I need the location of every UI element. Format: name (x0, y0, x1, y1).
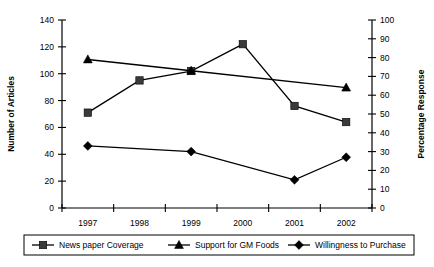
data-point-diamond (83, 142, 92, 151)
data-point-square (291, 102, 298, 109)
y-right-tick-label: 40 (380, 128, 390, 138)
y-right-tick-label: 90 (380, 34, 390, 44)
y-left-tick-label: 60 (45, 122, 55, 132)
y-axis-left-title: Number of Articles (6, 76, 16, 152)
legend-label: Willingness to Purchase (315, 240, 406, 250)
data-point-square (136, 77, 143, 84)
series-line (88, 146, 346, 180)
data-point-diamond (187, 147, 196, 156)
data-point-square (39, 241, 46, 248)
series-2 (83, 55, 350, 91)
y-right-tick-label: 20 (380, 165, 390, 175)
y-left-tick-label: 100 (40, 69, 54, 79)
series-3 (83, 142, 350, 185)
y-left-tick-label: 40 (45, 149, 55, 159)
x-tick-label: 1999 (182, 218, 201, 228)
axes-group (62, 20, 372, 208)
y-left-tick-label: 140 (40, 15, 54, 25)
data-point-square (84, 109, 91, 116)
x-tick-label: 2000 (233, 218, 252, 228)
y-right-tick-label: 80 (380, 53, 390, 63)
y-right-tick-label: 50 (380, 109, 390, 119)
data-point-triangle (83, 55, 92, 63)
x-tick-label: 2002 (337, 218, 356, 228)
chart-container: 020406080100120140 010203040506070809010… (0, 0, 434, 267)
data-point-diamond (290, 175, 299, 184)
y-right-tick-label: 60 (380, 90, 390, 100)
y-axis-right-title: Percentage Response (416, 69, 426, 158)
x-tick-label: 2001 (285, 218, 304, 228)
y-right-tick-label: 70 (380, 71, 390, 81)
series-group (83, 40, 350, 184)
data-point-square (239, 40, 246, 47)
y-left-tick-label: 80 (45, 96, 55, 106)
legend-label: News paper Coverage (59, 240, 144, 250)
y-right-tick-label: 0 (380, 203, 385, 213)
data-point-diamond (342, 153, 351, 162)
legend-group: News paper CoverageSupport for GM FoodsW… (32, 240, 406, 250)
y-right-tick-label: 10 (380, 184, 390, 194)
series-line (88, 59, 346, 87)
legend-label: Support for GM Foods (195, 240, 279, 250)
dual-axis-line-chart: 020406080100120140 010203040506070809010… (0, 0, 434, 267)
x-tick-label: 1998 (130, 218, 149, 228)
y-left-tick-label: 120 (40, 42, 54, 52)
x-tick-label: 1997 (78, 218, 97, 228)
y-right-tick-label: 100 (380, 15, 394, 25)
y-right-tick-label: 30 (380, 147, 390, 157)
y-left-tick-label: 20 (45, 176, 55, 186)
data-point-square (342, 118, 349, 125)
y-left-tick-label: 0 (49, 203, 54, 213)
